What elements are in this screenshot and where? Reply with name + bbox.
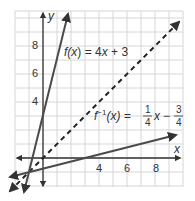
- svg-text:f−1(x) =: f−1(x) =: [94, 108, 131, 123]
- svg-text:1: 1: [145, 104, 151, 115]
- x-axis-label: x: [173, 142, 181, 156]
- y-tick-4: 4: [32, 95, 38, 107]
- x-tick-6: 6: [124, 162, 130, 174]
- x-tick-8: 8: [153, 162, 159, 174]
- y-tick-8: 8: [32, 39, 38, 51]
- grid: [15, 11, 183, 187]
- f-inverse-line: [10, 135, 176, 177]
- x-tick-4: 4: [96, 162, 102, 174]
- svg-text:−: −: [163, 109, 170, 123]
- f-label: f(x) = 4x + 3: [64, 45, 128, 59]
- y-axis-label: y: [47, 9, 55, 23]
- svg-text:4: 4: [176, 117, 182, 128]
- svg-text:x: x: [153, 109, 161, 123]
- f-line: [24, 14, 68, 192]
- svg-text:4: 4: [145, 117, 151, 128]
- svg-text:3: 3: [176, 104, 182, 115]
- graph: y x 8 6 4 4 6 8 f(x) = 4x + 3 f−1(x) = 1…: [0, 0, 195, 201]
- y-tick-6: 6: [32, 67, 38, 79]
